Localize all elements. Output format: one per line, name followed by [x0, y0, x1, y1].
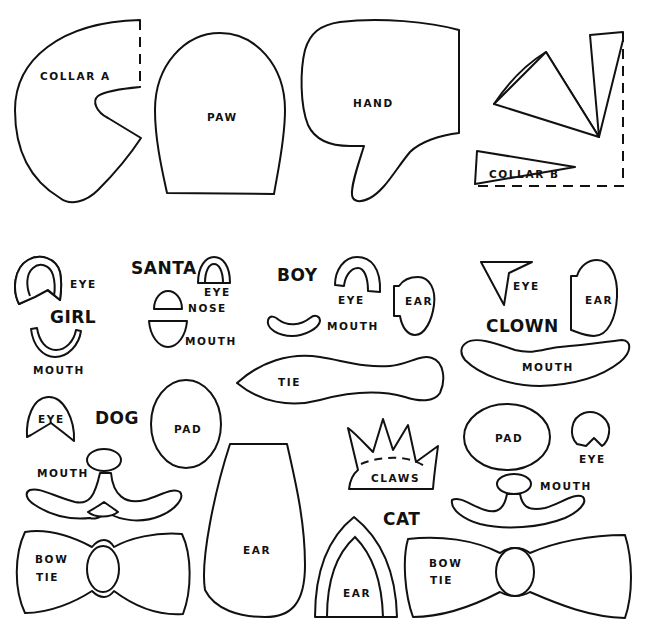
boy-tie-label: TIE: [278, 376, 301, 388]
hand-piece: HAND: [302, 20, 459, 201]
girl-title: GIRL: [50, 307, 96, 327]
dog-group: EYE DOG PAD MOUTH: [27, 380, 221, 520]
cat-bow-tie-piece: BOW TIE: [405, 535, 631, 618]
cat-bow-tie-label-1: BOW: [429, 557, 462, 569]
hand-label: HAND: [353, 97, 394, 109]
boy-ear-label: EAR: [405, 295, 433, 307]
clown-title: CLOWN: [486, 316, 559, 336]
dog-mouth-label: MOUTH: [37, 467, 89, 479]
cat-claws-label: CLAWS: [371, 472, 420, 484]
dog-title: DOG: [95, 408, 139, 428]
cat-eye-label: EYE: [579, 453, 606, 465]
dog-ear-piece: EAR: [204, 444, 305, 617]
boy-title: BOY: [277, 265, 318, 285]
boy-group: BOY EYE MOUTH EAR TIE: [237, 257, 443, 403]
clown-ear-label: EAR: [585, 294, 613, 306]
dog-ear-label: EAR: [243, 544, 271, 556]
paw-piece: PAW: [155, 33, 285, 194]
santa-title: SANTA: [131, 258, 197, 278]
clown-mouth-label: MOUTH: [522, 361, 574, 373]
santa-eye-label: EYE: [204, 286, 231, 298]
cat-bow-tie-label-2: TIE: [430, 574, 453, 586]
santa-group: SANTA EYE NOSE MOUTH: [131, 257, 237, 347]
dog-eye-label: EYE: [38, 413, 65, 425]
girl-mouth-label: MOUTH: [33, 364, 85, 376]
collar-b-label: COLLAR B: [489, 168, 560, 180]
cat-mouth-label: MOUTH: [540, 480, 592, 492]
santa-nose-label: NOSE: [188, 302, 227, 314]
pattern-sheet: COLLAR A PAW HAND COLLAR B EYE GIRL MOUT…: [0, 0, 646, 630]
girl-eye-label: EYE: [70, 278, 97, 290]
santa-mouth-label: MOUTH: [185, 335, 237, 347]
dog-pad-label: PAD: [174, 423, 202, 435]
collar-a-label: COLLAR A: [40, 70, 111, 82]
boy-eye-label: EYE: [338, 294, 365, 306]
dog-bow-tie-piece: BOW TIE: [17, 531, 190, 614]
collar-b-piece: COLLAR B: [475, 32, 623, 186]
cat-pad-label: PAD: [495, 432, 523, 444]
collar-a-piece: COLLAR A: [15, 20, 141, 202]
cat-ear-label: EAR: [343, 587, 371, 599]
cat-title: CAT: [383, 509, 420, 529]
dog-bow-tie-label-2: TIE: [36, 571, 59, 583]
girl-group: EYE GIRL MOUTH: [15, 257, 97, 376]
clown-eye-label: EYE: [513, 280, 540, 292]
boy-mouth-label: MOUTH: [327, 320, 379, 332]
dog-bow-tie-label-1: BOW: [35, 553, 68, 565]
paw-label: PAW: [207, 111, 238, 123]
clown-group: EYE EAR CLOWN MOUTH: [461, 260, 629, 386]
